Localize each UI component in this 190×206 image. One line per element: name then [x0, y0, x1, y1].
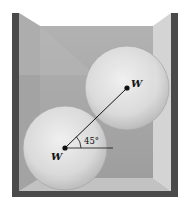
right-wall [171, 13, 178, 197]
lower-weight-label: W [51, 151, 64, 162]
statics-diagram: W W 45° [0, 0, 190, 206]
upper-weight-label: W [131, 78, 144, 89]
angle-label: 45° [84, 136, 99, 146]
left-wall [12, 13, 19, 197]
bottom-wall [12, 191, 178, 197]
lower-center-point [62, 145, 67, 150]
upper-center-point [124, 85, 129, 90]
